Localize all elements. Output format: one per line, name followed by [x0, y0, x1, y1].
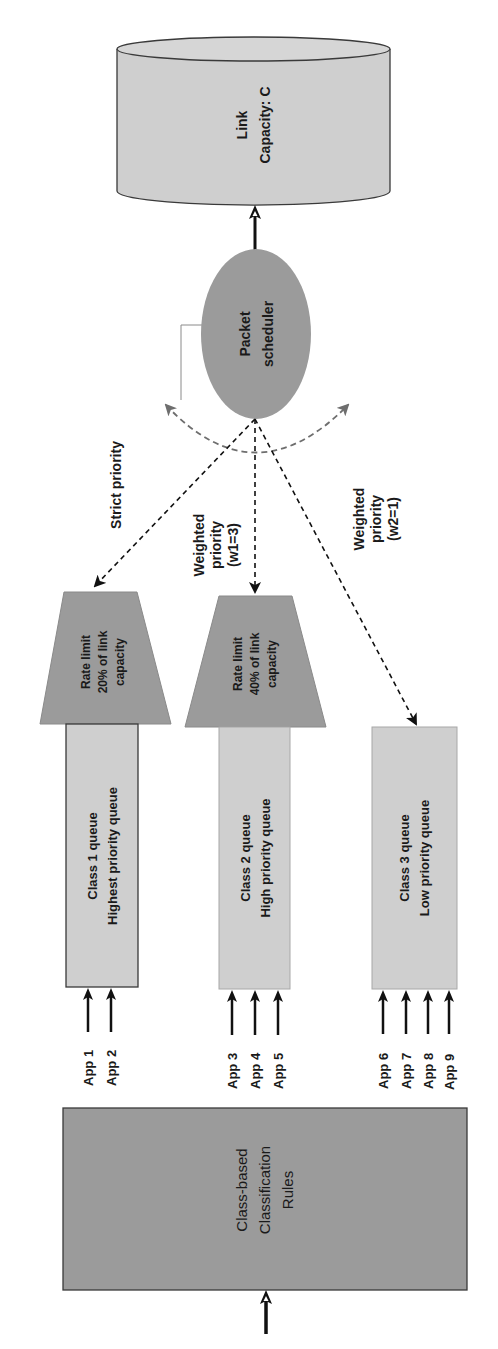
link-label: Link: [234, 110, 250, 139]
svg-text:(w1=3): (w1=3): [225, 523, 241, 567]
scheduler-label-2: scheduler: [260, 300, 276, 367]
svg-text:Rate limit: Rate limit: [79, 635, 93, 689]
svg-text:capacity: capacity: [265, 640, 279, 688]
app-8-label: App 8: [421, 1053, 436, 1089]
svg-text:Rate limit: Rate limit: [231, 637, 245, 691]
svg-text:(w2=1): (w2=1): [385, 497, 401, 541]
svg-text:Weighted: Weighted: [191, 514, 207, 577]
svg-text:Rules: Rules: [279, 1171, 296, 1209]
queue-class1: Class 1 queue Highest priority queue: [66, 724, 138, 987]
app-inputs-class2: App 3 App 4 App 5: [225, 990, 286, 1089]
app-5-label: App 5: [271, 1053, 286, 1089]
svg-text:Class 3 queue: Class 3 queue: [397, 814, 412, 901]
queue-class2: Class 2 queue High priority queue: [219, 727, 290, 989]
app-6-label: App 6: [376, 1053, 391, 1089]
svg-text:Class-based: Class-based: [233, 1148, 250, 1231]
classification-rules-box: Class-based Classification Rules: [63, 1108, 467, 1290]
svg-text:Class 1 queue: Class 1 queue: [85, 812, 100, 899]
svg-text:Weighted: Weighted: [351, 488, 367, 551]
app-1-label: App 1: [81, 1050, 96, 1086]
scheduler-label-1: Packet: [237, 311, 253, 356]
qos-scheduling-diagram: Link Capacity: C Packet scheduler Strict…: [0, 0, 498, 1349]
rate-limiter-class1: Rate limit 20% of link capacity: [40, 592, 171, 724]
svg-text:High priority queue: High priority queue: [258, 798, 273, 917]
svg-text:Low priority queue: Low priority queue: [417, 800, 432, 916]
packet-scheduler: Packet scheduler: [181, 249, 311, 419]
app-7-label: App 7: [399, 1053, 414, 1089]
strict-priority-label: Strict priority: [108, 441, 124, 529]
app-2-label: App 2: [104, 1050, 119, 1086]
svg-text:Class 2 queue: Class 2 queue: [238, 814, 253, 901]
app-inputs-class1: App 1 App 2: [81, 988, 119, 1086]
svg-text:priority: priority: [208, 521, 224, 569]
app-9-label: App 9: [442, 1054, 457, 1090]
scheduler-feedback-line: [181, 325, 202, 400]
svg-text:Classification: Classification: [256, 1146, 273, 1234]
svg-text:Highest priority queue: Highest priority queue: [105, 787, 120, 925]
link-capacity-label: Capacity: C: [257, 86, 273, 163]
svg-text:priority: priority: [368, 495, 384, 543]
svg-text:40% of link: 40% of link: [248, 632, 262, 695]
link-cylinder: Link Capacity: C: [117, 37, 390, 205]
weighted-w1-label: Weighted priority (w1=3): [191, 514, 241, 577]
svg-text:capacity: capacity: [113, 638, 127, 686]
app-3-label: App 3: [225, 1053, 240, 1089]
rate-limiter-class2: Rate limit 40% of link capacity: [185, 596, 326, 727]
app-inputs-class3: App 6 App 7 App 8 App 9: [376, 990, 457, 1090]
svg-text:20% of link: 20% of link: [96, 630, 110, 693]
queue-class3: Class 3 queue Low priority queue: [372, 727, 457, 989]
app-4-label: App 4: [248, 1052, 263, 1089]
weighted-w2-label: Weighted priority (w2=1): [351, 488, 401, 551]
